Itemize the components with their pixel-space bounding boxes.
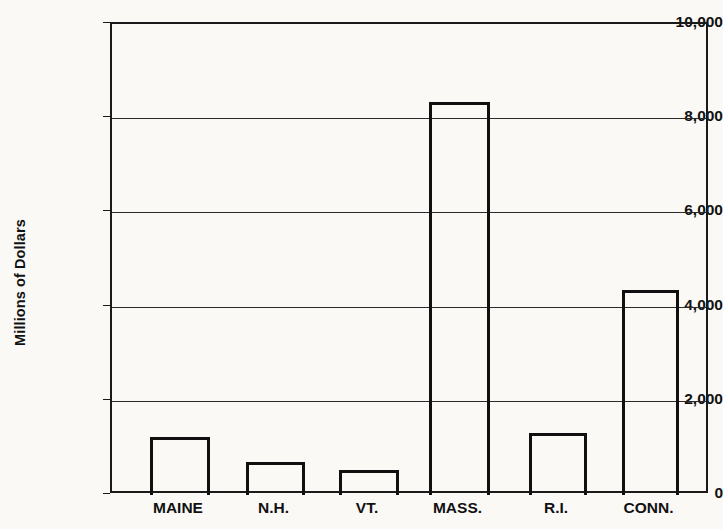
gridline (112, 212, 706, 213)
bar-conn[interactable] (622, 290, 679, 495)
y-axis-title: Millions of Dollars (0, 0, 40, 529)
y-axis-tick-mark (103, 210, 110, 211)
y-axis-tick-mark (103, 305, 110, 306)
bar-n-h[interactable] (246, 462, 305, 495)
bar-chart: Millions of Dollars 02,0004,0006,0008,00… (0, 0, 723, 529)
bar-vt[interactable] (339, 470, 399, 495)
y-axis-tick-mark (103, 116, 110, 117)
bar-mass[interactable] (429, 102, 490, 495)
y-axis-title-text: Millions of Dollars (12, 219, 28, 346)
plot-area (110, 22, 708, 493)
bar-r-i[interactable] (529, 433, 587, 495)
x-axis-category-label: CONN. (589, 500, 709, 516)
y-axis-tick-mark (103, 493, 110, 494)
gridline (112, 307, 706, 308)
y-axis-tick-mark (103, 399, 110, 400)
gridline (112, 401, 706, 402)
y-axis-tick-mark (103, 22, 110, 23)
gridline (112, 118, 706, 119)
bar-maine[interactable] (150, 437, 210, 495)
